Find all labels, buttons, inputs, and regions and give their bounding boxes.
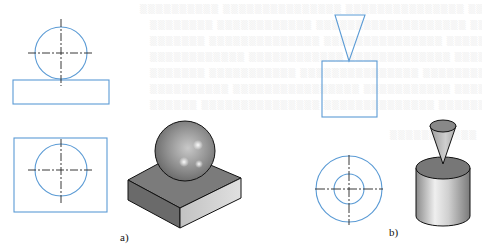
panel-a-front-view <box>13 19 109 104</box>
panel-b-front-view <box>322 15 377 117</box>
sphere <box>155 121 215 181</box>
panel-a <box>13 19 241 228</box>
panel-b-label: b) <box>389 226 398 238</box>
panel-a-top-view <box>14 138 107 212</box>
figure-canvas <box>0 0 482 250</box>
technical-drawing-figure: ▒▒▒▒▒▒▒▒▒▒ ▒▒▒▒▒▒▒▒▒▒▒▒▒▒▒ ▒▒▒▒▒▒▒▒▒▒▒▒▒… <box>0 0 482 250</box>
panel-a-label: a) <box>120 231 129 243</box>
sphere-highlight <box>195 160 203 168</box>
sphere-highlight <box>179 157 189 167</box>
panel-b-top-view <box>315 155 383 225</box>
panel-a-isometric-render <box>128 121 241 228</box>
panel-b-isometric-render <box>416 120 470 226</box>
cone-outline <box>335 15 365 61</box>
block-outline <box>13 80 109 104</box>
cylinder-outline <box>322 61 377 117</box>
block-top-outline <box>14 138 107 212</box>
sphere-highlight <box>193 140 203 150</box>
cone-base-face <box>430 120 456 132</box>
panel-b <box>315 15 470 226</box>
